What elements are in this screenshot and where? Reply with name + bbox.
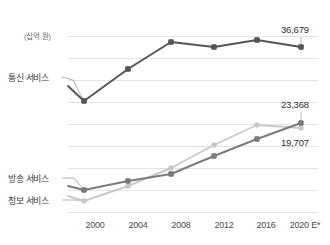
series-line-broadcast <box>68 121 303 193</box>
series-label-telecom: 통신 서비스 <box>8 71 49 84</box>
y-axis-unit-label: (십억 원) <box>24 30 51 41</box>
data-point <box>299 121 304 126</box>
data-point <box>82 199 87 204</box>
data-point <box>255 38 260 43</box>
leader-lines <box>62 77 84 201</box>
data-point <box>126 67 131 72</box>
data-point <box>212 45 217 50</box>
data-point <box>126 184 131 189</box>
value-label-info: 23,368 <box>281 99 309 110</box>
x-tick-2016: 2016 <box>256 220 275 230</box>
x-tick-2012: 2012 <box>214 220 233 230</box>
value-label-telecom: 36,679 <box>281 24 309 35</box>
series-line-telecom <box>68 38 304 104</box>
data-point <box>169 166 174 171</box>
x-tick-2020: 2020 E* <box>290 220 321 230</box>
x-tick-2008: 2008 <box>171 220 190 230</box>
data-point <box>255 123 260 128</box>
data-point <box>169 40 174 45</box>
data-point <box>126 179 131 184</box>
value-label-broadcast: 19,707 <box>281 137 309 148</box>
line-chart: (십억 원) 통신 서비스 방송 서비스 정보 서비스 36,679 23,36… <box>0 0 330 245</box>
series-label-broadcast: 방송 서비스 <box>8 172 49 185</box>
x-tick-2000: 2000 <box>85 220 104 230</box>
data-point <box>212 154 217 159</box>
data-point <box>82 99 87 104</box>
data-point <box>255 137 260 142</box>
data-point <box>299 45 304 50</box>
data-point <box>212 143 217 148</box>
data-point <box>169 172 174 177</box>
data-point <box>299 126 304 131</box>
series-label-info: 정보 서비스 <box>8 194 49 207</box>
x-tick-2004: 2004 <box>128 220 147 230</box>
data-point <box>82 188 87 193</box>
